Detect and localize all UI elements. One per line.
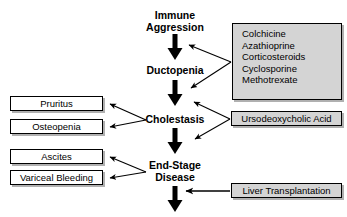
flow-diagram: Immune Aggression Ductopenia Cholestasis… (0, 0, 347, 217)
box-osteopenia: Osteopenia (10, 119, 103, 134)
spine-arrow-ductopenia-to-cholestasis (168, 80, 183, 106)
box-liver-transplantation: Liver Transplantation (231, 183, 342, 198)
node-end-stage-disease: End-Stage Disease (130, 160, 220, 183)
spine-arrow-endstage-to-outcome (168, 186, 183, 212)
box-pruritus: Pruritus (10, 96, 103, 111)
node-ductopenia: Ductopenia (130, 65, 220, 77)
box-ursodeoxycholic-acid: Ursodeoxycholic Acid (231, 111, 342, 126)
node-immune-aggression: Immune Aggression (130, 10, 220, 33)
spine-arrow-immune-to-ductopenia (168, 34, 183, 60)
box-immunosuppressive-drugs: Colchicine Azathioprine Corticosteroids … (232, 23, 342, 100)
spine-arrow-cholestasis-to-endstage (168, 128, 183, 154)
box-ascites: Ascites (10, 149, 103, 164)
box-variceal-bleeding: Variceal Bleeding (10, 170, 103, 185)
edge-drugs-to-upper-spine (189, 45, 231, 62)
node-cholestasis: Cholestasis (130, 114, 220, 126)
